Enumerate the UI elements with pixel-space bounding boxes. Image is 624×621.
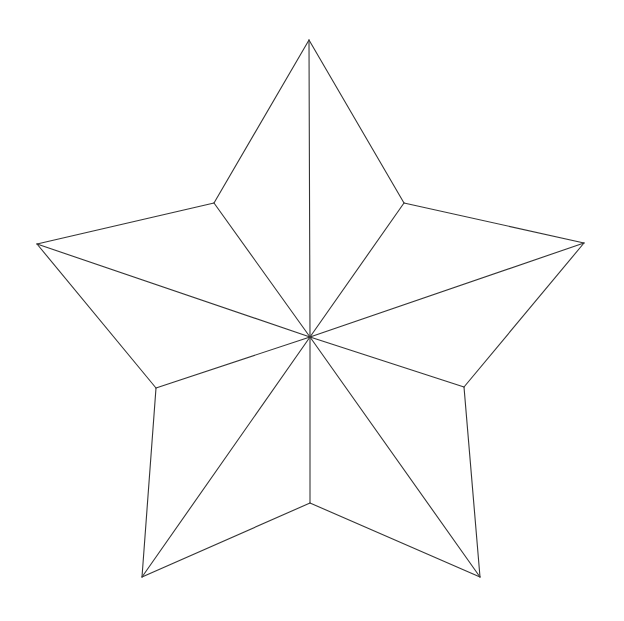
star-diagram [0,0,624,621]
